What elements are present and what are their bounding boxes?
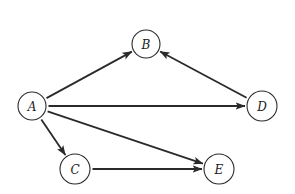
- node-a: A: [18, 92, 46, 120]
- node-d: D: [247, 91, 277, 121]
- node-c: C: [60, 154, 90, 184]
- node-label: E: [214, 163, 224, 177]
- directed-graph: ABDCE: [0, 0, 295, 194]
- nodes-layer: ABDCE: [18, 30, 277, 184]
- node-label: B: [141, 38, 151, 52]
- node-label: A: [27, 100, 37, 114]
- node-e: E: [204, 154, 234, 184]
- node-label: C: [70, 163, 79, 177]
- node-b: B: [132, 30, 160, 58]
- node-label: D: [256, 100, 267, 114]
- edge-a-to-b: [47, 52, 132, 99]
- edge-a-to-c: [41, 120, 65, 155]
- edges-layer: [41, 52, 246, 170]
- edge-d-to-b: [160, 52, 247, 98]
